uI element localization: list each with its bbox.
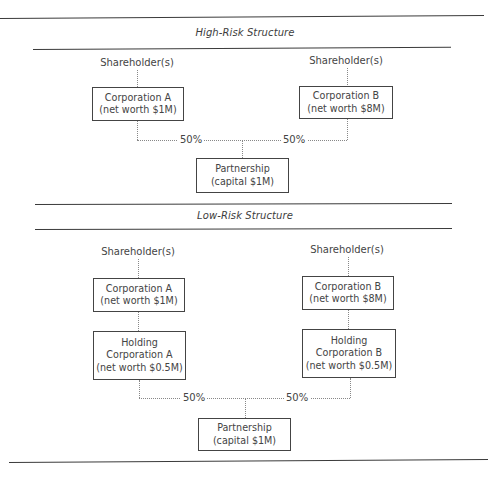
- low-connector-a-holding: [138, 312, 139, 331]
- holding-corporation-a-box: Holding Corporation A (net worth $0.5M): [93, 331, 186, 380]
- high-corp-a-name: Corporation A: [105, 92, 171, 105]
- high-pct-b: 50%: [281, 134, 307, 145]
- low-corporation-b-box: Corporation B (net worth $8M): [302, 276, 394, 310]
- low-connector-sh-b: [348, 257, 349, 276]
- section-divider-top: [35, 203, 452, 205]
- low-shareholder-b: Shareholder(s): [307, 244, 387, 255]
- bottom-rule: [9, 459, 488, 463]
- low-corporation-a-box: Corporation A (net worth $1M): [93, 278, 185, 312]
- high-corporation-a-box: Corporation A (net worth $1M): [92, 87, 184, 121]
- high-risk-heading: High-Risk Structure: [180, 27, 310, 38]
- high-shareholder-a: Shareholder(s): [97, 57, 177, 68]
- high-risk-heading-rule: [33, 47, 451, 50]
- holding-corporation-b-box: Holding Corporation B (net worth $0.5M): [302, 329, 396, 378]
- holding-a-line1: Holding: [121, 337, 158, 350]
- low-connector-b-down: [350, 378, 351, 398]
- high-corporation-b-box: Corporation B (net worth $8M): [299, 86, 393, 119]
- high-partnership-box: Partnership (capital $1M): [196, 158, 289, 193]
- low-connector-partnership: [245, 398, 246, 418]
- holding-b-networth: (net worth $0.5M): [306, 360, 392, 373]
- low-connector-a-down: [139, 380, 140, 398]
- low-partnership-capital: (capital $1M): [213, 435, 276, 448]
- low-connector-sh-a: [138, 259, 139, 278]
- low-corp-a-networth: (net worth $1M): [100, 295, 177, 308]
- low-corp-b-name: Corporation B: [315, 281, 381, 294]
- low-corp-b-networth: (net worth $8M): [309, 293, 386, 306]
- high-partnership-capital: (capital $1M): [211, 176, 274, 189]
- high-pct-a: 50%: [178, 134, 204, 145]
- high-corp-a-networth: (net worth $1M): [99, 104, 176, 117]
- top-rule: [0, 15, 484, 19]
- low-shareholder-a: Shareholder(s): [98, 246, 178, 257]
- high-shareholder-b: Shareholder(s): [306, 55, 386, 66]
- high-connector-b-down: [347, 119, 348, 140]
- high-corp-b-name: Corporation B: [313, 90, 379, 103]
- high-connector-partnership: [242, 140, 243, 158]
- low-risk-heading: Low-Risk Structure: [180, 210, 310, 221]
- low-partnership-box: Partnership (capital $1M): [198, 418, 291, 451]
- holding-a-networth: (net worth $0.5M): [96, 362, 182, 375]
- high-connector-sh-a: [137, 70, 138, 87]
- low-corp-a-name: Corporation A: [106, 283, 172, 296]
- high-connector-sh-b: [347, 68, 348, 87]
- holding-b-line1: Holding: [331, 335, 368, 348]
- holding-a-line2: Corporation A: [106, 349, 172, 362]
- low-pct-a: 50%: [181, 392, 207, 403]
- low-partnership-name: Partnership: [217, 422, 272, 435]
- high-partnership-name: Partnership: [215, 163, 270, 176]
- holding-b-line2: Corporation B: [316, 347, 382, 360]
- high-connector-a-down: [137, 121, 138, 140]
- low-connector-b-holding: [348, 310, 349, 329]
- high-corp-b-networth: (net worth $8M): [307, 103, 384, 116]
- low-pct-b: 50%: [284, 392, 310, 403]
- low-risk-heading-rule: [35, 228, 452, 230]
